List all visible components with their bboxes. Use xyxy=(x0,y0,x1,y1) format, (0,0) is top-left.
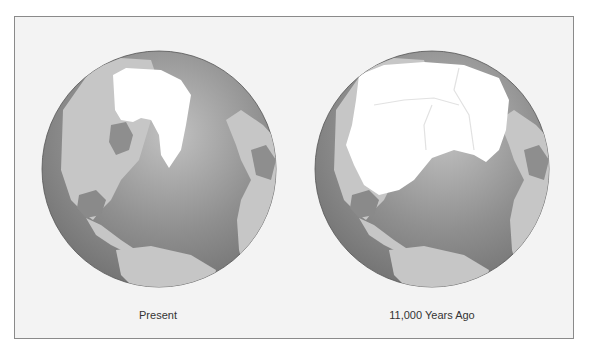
caption-11000-years-ago: 11,000 Years Ago xyxy=(332,309,532,321)
globe-present xyxy=(41,50,277,288)
globe-present-illustration xyxy=(41,50,277,288)
globe-past-illustration xyxy=(314,50,550,288)
caption-present: Present xyxy=(58,309,258,321)
globe-11000-years-ago xyxy=(314,50,550,288)
